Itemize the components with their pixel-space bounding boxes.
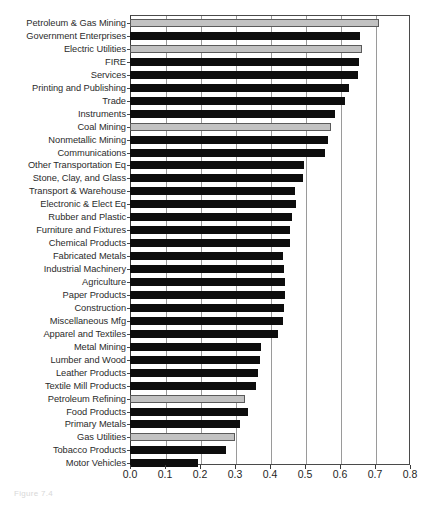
bar xyxy=(130,369,258,377)
bar-row xyxy=(130,56,410,69)
bar xyxy=(130,84,349,92)
bar-row xyxy=(130,95,410,108)
category-tick xyxy=(127,347,130,348)
bar xyxy=(130,356,260,364)
category-tick xyxy=(127,204,130,205)
bar xyxy=(130,200,296,208)
category-tick xyxy=(127,450,130,451)
category-label: Trade xyxy=(0,95,126,108)
bar-row xyxy=(130,302,410,315)
bar xyxy=(130,291,285,299)
x-tick-label: 0.6 xyxy=(333,468,348,480)
category-tick xyxy=(127,101,130,102)
category-label: Primary Metals xyxy=(0,418,126,431)
category-label: Government Enterprises xyxy=(0,30,126,43)
bar xyxy=(130,420,240,428)
category-label: Furniture and Fixtures xyxy=(0,224,126,237)
bar-row xyxy=(130,315,410,328)
x-tick-mark xyxy=(305,465,306,469)
x-tick-mark xyxy=(200,465,201,469)
category-tick xyxy=(127,36,130,37)
category-tick xyxy=(127,75,130,76)
x-tick-label: 0.7 xyxy=(368,468,383,480)
category-tick xyxy=(127,49,130,50)
category-label: Tobacco Products xyxy=(0,444,126,457)
category-label: Transport & Warehouse xyxy=(0,185,126,198)
bar-row xyxy=(130,147,410,160)
bar xyxy=(130,433,235,441)
bar xyxy=(130,459,198,467)
category-label: Instruments xyxy=(0,108,126,121)
category-tick xyxy=(127,386,130,387)
category-tick xyxy=(127,269,130,270)
bar-row xyxy=(130,418,410,431)
category-label: Food Products xyxy=(0,406,126,419)
bar-row xyxy=(130,263,410,276)
x-tick-mark xyxy=(340,465,341,469)
category-label: Electric Utilities xyxy=(0,43,126,56)
bar xyxy=(130,213,292,221)
x-tick-label: 0.5 xyxy=(298,468,313,480)
bar xyxy=(130,136,328,144)
category-axis: Petroleum & Gas MiningGovernment Enterpr… xyxy=(0,15,126,465)
x-axis: 0.00.10.20.30.40.50.60.70.8 xyxy=(0,468,434,484)
bar xyxy=(130,71,358,79)
category-tick xyxy=(127,334,130,335)
bar xyxy=(130,446,226,454)
bar xyxy=(130,149,325,157)
x-tick-label: 0.4 xyxy=(263,468,278,480)
category-tick xyxy=(127,62,130,63)
bar xyxy=(130,110,335,118)
bar-row xyxy=(130,328,410,341)
category-tick xyxy=(127,412,130,413)
x-tick-mark xyxy=(130,465,131,469)
category-label: Textile Mill Products xyxy=(0,380,126,393)
category-tick xyxy=(127,295,130,296)
category-label: Rubber and Plastic xyxy=(0,211,126,224)
bar-row xyxy=(130,211,410,224)
category-label: Industrial Machinery xyxy=(0,263,126,276)
category-tick xyxy=(127,153,130,154)
category-label: Lumber and Wood xyxy=(0,354,126,367)
x-tick-label: 0.2 xyxy=(193,468,208,480)
bar-row xyxy=(130,289,410,302)
category-tick xyxy=(127,256,130,257)
bar-row xyxy=(130,380,410,393)
bar xyxy=(130,304,284,312)
category-tick xyxy=(127,178,130,179)
category-label: Metal Mining xyxy=(0,341,126,354)
bar xyxy=(130,174,303,182)
bar-row xyxy=(130,237,410,250)
category-tick xyxy=(127,191,130,192)
bar-row xyxy=(130,224,410,237)
category-label: Petroleum & Gas Mining xyxy=(0,17,126,30)
bar xyxy=(130,226,290,234)
bar-row xyxy=(130,250,410,263)
bar-row xyxy=(130,276,410,289)
x-tick-mark xyxy=(375,465,376,469)
category-label: Apparel and Textiles xyxy=(0,328,126,341)
bar-row xyxy=(130,393,410,406)
category-tick xyxy=(127,308,130,309)
category-label: Printing and Publishing xyxy=(0,82,126,95)
bar-row xyxy=(130,82,410,95)
category-label: FIRE xyxy=(0,56,126,69)
bar xyxy=(130,161,304,169)
category-label: Communications xyxy=(0,147,126,160)
category-label: Electronic & Elect Eq xyxy=(0,198,126,211)
category-label: Agriculture xyxy=(0,276,126,289)
bar xyxy=(130,317,283,325)
bar xyxy=(130,265,284,273)
category-label: Leather Products xyxy=(0,367,126,380)
category-tick xyxy=(127,373,130,374)
category-tick xyxy=(127,217,130,218)
bar xyxy=(130,408,248,416)
bar xyxy=(130,278,285,286)
bar-row xyxy=(130,354,410,367)
category-tick xyxy=(127,114,130,115)
category-label: Fabricated Metals xyxy=(0,250,126,263)
bar-row xyxy=(130,431,410,444)
category-label: Stone, Clay, and Glass xyxy=(0,172,126,185)
category-label: Paper Products xyxy=(0,289,126,302)
bar xyxy=(130,58,359,66)
